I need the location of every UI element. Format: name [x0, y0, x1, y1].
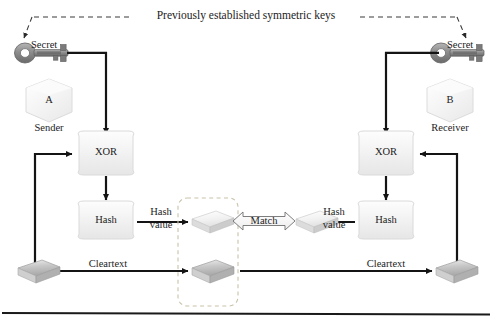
receiver-role-label: Receiver	[431, 122, 468, 133]
sender-xor-label: XOR	[95, 146, 117, 157]
sender-cleartext-slab	[18, 260, 60, 283]
sender-cleartext-label: Cleartext	[89, 258, 127, 269]
sender-hash-value-label-line2: value	[150, 219, 173, 230]
receiver-key-label: Secret	[447, 39, 473, 50]
transmitted-cleartext-slab	[192, 260, 234, 283]
diagram-title: Previously established symmetric keys	[157, 9, 336, 21]
sender-key-label: Secret	[31, 39, 57, 50]
match-label: Match	[251, 215, 278, 226]
diagram-canvas: Previously established symmetric keys Se…	[0, 0, 492, 328]
sender-hash-value-slab	[192, 211, 234, 233]
sender-entity-letter: A	[45, 94, 53, 105]
receiver-cleartext-label: Cleartext	[367, 258, 405, 269]
receiver-hash-value-label-line1: Hash	[323, 206, 345, 217]
receiver-connectors	[240, 53, 457, 271]
sender-role-label: Sender	[34, 122, 63, 133]
diagram-graphics	[0, 0, 492, 328]
receiver-xor-label: XOR	[375, 146, 397, 157]
receiver-cleartext-slab	[436, 260, 478, 283]
receiver-entity-letter: B	[446, 94, 453, 105]
sender-hash-value-label-line1: Hash	[150, 206, 172, 217]
bottom-rule	[2, 313, 490, 315]
receiver-hash-value-label-line2: value	[323, 219, 346, 230]
sender-hash-label: Hash	[95, 214, 117, 225]
receiver-hash-label: Hash	[375, 214, 397, 225]
